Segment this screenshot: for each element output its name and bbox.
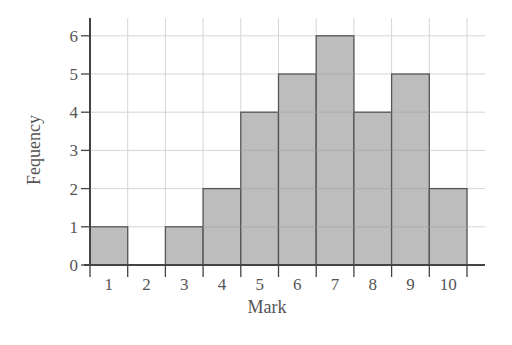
x-tick-label: 5	[255, 275, 264, 294]
bar-1	[90, 227, 128, 265]
y-tick-label: 3	[70, 141, 79, 160]
y-ticks: 0123456	[70, 27, 91, 275]
y-tick-label: 4	[70, 103, 79, 122]
x-ticks: 12345678910	[90, 265, 467, 294]
x-tick-label: 6	[293, 275, 302, 294]
y-tick-label: 1	[70, 218, 79, 237]
x-tick-label: 1	[105, 275, 114, 294]
x-tick-label: 10	[440, 275, 457, 294]
histogram-chart: 0123456 12345678910 Mark Fequency	[0, 0, 512, 345]
x-tick-label: 9	[406, 275, 415, 294]
y-tick-label: 5	[70, 65, 79, 84]
x-tick-label: 3	[180, 275, 189, 294]
x-axis-title: Mark	[248, 297, 287, 317]
y-axis-title: Fequency	[24, 115, 44, 185]
bar-9	[392, 74, 430, 265]
bar-6	[279, 74, 317, 265]
y-tick-label: 6	[70, 27, 79, 46]
y-tick-label: 0	[70, 256, 79, 275]
x-tick-label: 7	[331, 275, 340, 294]
x-tick-label: 4	[218, 275, 227, 294]
x-tick-label: 2	[142, 275, 151, 294]
y-tick-label: 2	[70, 180, 79, 199]
x-tick-label: 8	[369, 275, 378, 294]
bar-3	[165, 227, 203, 265]
